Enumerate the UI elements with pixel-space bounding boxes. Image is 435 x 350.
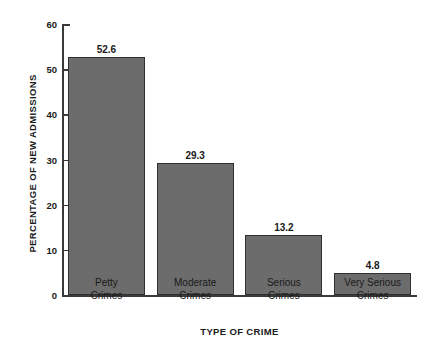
y-tick-label: 0 — [52, 290, 57, 301]
y-tick-label: 30 — [46, 154, 57, 165]
x-category-label-line: Moderate — [174, 277, 216, 290]
y-tick-label: 50 — [46, 64, 57, 75]
y-axis-title: PERCENTAGE OF NEW ADMISSIONS — [27, 49, 38, 279]
x-category-label-line: Serious — [267, 277, 301, 290]
clipped-caption — [62, 344, 417, 350]
x-category-label-line: Crimes — [344, 290, 401, 303]
y-tick-mark — [64, 24, 70, 26]
bar: 29.3 — [157, 163, 234, 295]
x-category-label-line: Very Serious — [344, 277, 401, 290]
x-axis-title: TYPE OF CRIME — [62, 326, 417, 337]
y-tick-label: 60 — [46, 19, 57, 30]
x-category-label-line: Petty — [91, 277, 123, 290]
bar-value-label: 52.6 — [97, 44, 116, 55]
plot-area: 0102030405060 52.629.313.24.8 — [62, 24, 417, 295]
x-category-label: ModerateCrimes — [174, 277, 216, 302]
bar-chart-figure: PERCENTAGE OF NEW ADMISSIONS 01020304050… — [0, 0, 435, 350]
x-category-label: Very SeriousCrimes — [344, 277, 401, 302]
y-tick-label: 20 — [46, 199, 57, 210]
bar-value-label: 4.8 — [366, 260, 380, 271]
y-tick-label: 10 — [46, 244, 57, 255]
x-category-label: SeriousCrimes — [267, 277, 301, 302]
x-category-label: PettyCrimes — [91, 277, 123, 302]
x-category-label-line: Crimes — [174, 290, 216, 303]
bar-value-label: 13.2 — [274, 222, 293, 233]
x-category-label-line: Crimes — [91, 290, 123, 303]
bar: 52.6 — [68, 57, 145, 295]
y-tick-mark — [64, 295, 70, 297]
bar-value-label: 29.3 — [185, 150, 204, 161]
x-category-label-line: Crimes — [267, 290, 301, 303]
y-tick-label: 40 — [46, 109, 57, 120]
